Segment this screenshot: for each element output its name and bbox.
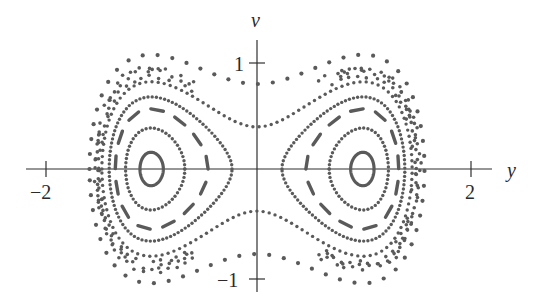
orbit-point — [385, 246, 388, 249]
orbit-point — [264, 124, 267, 127]
orbit-point — [334, 231, 337, 234]
orbit-point — [257, 125, 260, 128]
orbit-point — [400, 111, 403, 114]
orbit-point — [109, 238, 113, 242]
orbit-point — [410, 172, 413, 175]
orbit-point — [183, 244, 186, 247]
orbit-point — [302, 105, 305, 108]
orbit-point — [129, 232, 132, 235]
orbit-point — [107, 214, 110, 217]
orbit-point — [379, 197, 382, 200]
orbit-point — [207, 104, 210, 107]
orbit-point — [126, 186, 129, 189]
orbit-point — [340, 101, 343, 104]
orbit-point — [190, 251, 194, 255]
orbit-point — [167, 99, 170, 102]
orbit-point — [223, 114, 226, 117]
orbit-point — [110, 141, 113, 144]
orbit-point — [165, 236, 168, 239]
orbit-point — [114, 125, 117, 128]
orbit-point — [405, 117, 409, 121]
orbit-point — [155, 96, 158, 99]
orbit-point — [179, 74, 183, 78]
orbit-point — [329, 155, 332, 158]
orbit-point — [169, 235, 172, 238]
orbit-point — [416, 196, 420, 200]
orbit-point — [394, 94, 398, 98]
orbit-point — [183, 84, 187, 88]
orbit-point — [328, 163, 331, 166]
orbit-point — [335, 144, 338, 147]
orbit-point — [324, 93, 327, 96]
orbit-point — [326, 109, 329, 112]
orbit-point — [306, 231, 309, 234]
orbit-point — [151, 95, 154, 98]
orbit-point — [309, 123, 312, 126]
orbit-point — [96, 139, 100, 143]
orbit-point — [275, 121, 278, 124]
orbit-point — [132, 197, 135, 200]
orbit-point — [400, 90, 404, 94]
orbit-point — [383, 190, 386, 193]
orbit-point — [130, 141, 133, 144]
orbit-point — [406, 128, 409, 131]
orbit-point — [374, 204, 377, 207]
orbit-point — [384, 149, 387, 152]
orbit-point — [313, 66, 317, 70]
orbit-point — [219, 141, 222, 144]
orbit-point — [391, 95, 394, 98]
orbit-point — [398, 105, 401, 108]
orbit-point — [406, 220, 410, 224]
orbit-point — [382, 86, 385, 89]
orbit-point — [327, 244, 330, 247]
orbit-point — [147, 70, 151, 74]
orbit-point — [391, 114, 394, 117]
orbit-point — [350, 205, 353, 208]
orbit-point — [397, 250, 401, 254]
orbit-point — [403, 175, 406, 178]
orbit-point — [182, 107, 185, 110]
orbit-point — [409, 121, 413, 125]
orbit-point — [113, 129, 116, 132]
orbit-point — [167, 279, 171, 283]
orbit-point — [328, 159, 331, 162]
orbit-point — [142, 254, 145, 257]
orbit-point — [329, 107, 332, 110]
orbit-point — [198, 120, 201, 123]
orbit-point — [161, 205, 164, 208]
orbit-point — [117, 256, 121, 260]
orbit-point — [399, 101, 403, 105]
orbit-point — [134, 70, 138, 74]
orbit-point — [322, 112, 325, 115]
orbit-dash — [306, 156, 308, 169]
orbit-point — [88, 152, 92, 156]
orbit-point — [141, 206, 144, 209]
orbit-point — [108, 179, 111, 182]
orbit-point — [356, 75, 360, 79]
orbit-point — [251, 125, 254, 128]
orbit-point — [410, 242, 414, 246]
orbit-point — [398, 246, 402, 250]
orbit-point — [125, 153, 128, 156]
orbit-dash — [118, 131, 122, 143]
orbit-point — [404, 122, 407, 125]
orbit-point — [385, 182, 388, 185]
orbit-point — [410, 159, 413, 162]
orbit-point — [173, 140, 176, 143]
orbit-point — [401, 141, 404, 144]
orbit-dash — [206, 156, 208, 169]
orbit-point — [330, 83, 334, 87]
orbit-point — [373, 73, 377, 77]
orbit-dash — [184, 204, 193, 213]
orbit-point — [223, 148, 226, 151]
orbit-point — [376, 83, 379, 86]
orbit-point — [139, 77, 143, 81]
orbit-point — [170, 75, 174, 79]
orbit-point — [121, 73, 125, 77]
orbit-point — [386, 157, 389, 160]
orbit-point — [103, 137, 106, 140]
orbit-point — [189, 241, 192, 244]
orbit-point — [415, 126, 419, 130]
orbit-point — [157, 128, 160, 131]
orbit-point — [356, 254, 359, 257]
